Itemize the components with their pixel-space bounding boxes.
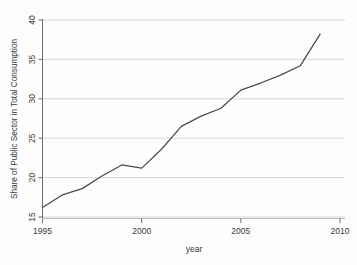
y-axis-title: Share of Public Sector in Total Consumpt… [10,39,19,199]
y-tick-label-40: 40 [27,15,37,25]
y-tick-label-25: 25 [27,133,37,143]
x-tick-label-2000: 2000 [132,226,151,236]
x-tick-label-1995: 1995 [33,226,52,236]
figure-background [0,0,357,265]
y-tick-label-20: 20 [27,173,37,183]
chart-figure: 152025303540 1995200020052010 year Share… [0,0,357,265]
y-tick-label-15: 15 [27,212,37,222]
y-tick-label-35: 35 [27,54,37,64]
x-tick-label-2010: 2010 [331,226,350,236]
x-axis-title: year [186,244,203,254]
y-tick-label-30: 30 [27,94,37,104]
line-chart: 152025303540 1995200020052010 year Share… [0,0,357,265]
x-tick-label-2005: 2005 [231,226,250,236]
